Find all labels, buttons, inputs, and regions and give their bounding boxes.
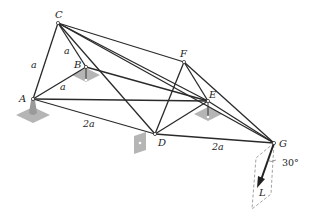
label-b: B — [73, 59, 81, 70]
label-c: C — [55, 9, 63, 20]
dim-a-c: a — [31, 59, 37, 70]
label-e: E — [208, 89, 217, 100]
node-d — [153, 132, 156, 135]
dim-c-b: a — [64, 45, 70, 56]
load-angle-label: 30° — [282, 157, 299, 168]
member-a-e — [33, 99, 208, 101]
node-b — [84, 65, 87, 68]
label-f: F — [179, 48, 188, 59]
truss-members — [33, 23, 274, 143]
member-f-g — [184, 62, 274, 143]
node-f — [182, 60, 185, 63]
member-c-d — [58, 23, 155, 134]
dim-d-g: 2a — [211, 141, 224, 152]
support-d — [134, 132, 146, 154]
truss-diagram: A B C D E F G a a a 2a 2a L 30° — [0, 0, 312, 224]
label-g: G — [279, 138, 287, 149]
dim-a-d: 2a — [82, 118, 95, 129]
dim-a-b: a — [60, 81, 66, 92]
label-a: A — [18, 93, 26, 104]
load-label: L — [258, 187, 266, 198]
support-e — [194, 101, 222, 121]
label-d: D — [157, 137, 166, 148]
node-c — [56, 21, 59, 24]
member-d-e — [155, 101, 208, 134]
member-e-g — [208, 101, 274, 143]
node-a — [31, 97, 34, 100]
node-g — [272, 141, 275, 144]
member-f-d — [155, 62, 184, 134]
member-a-c — [33, 23, 58, 99]
